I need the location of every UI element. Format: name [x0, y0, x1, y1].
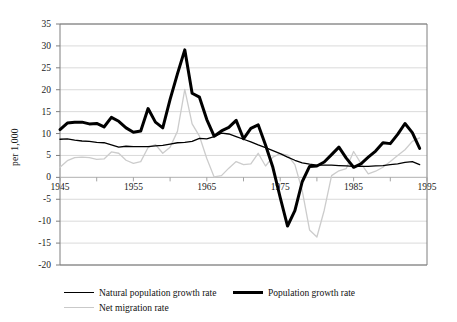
- legend-item-natural-population-growth-rate: Natural population growth rate: [64, 288, 216, 299]
- legend-label-migration: Net migration rate: [99, 303, 169, 313]
- population-growth-chart: per 1,000 35302520151050-5-10-15-20 1945…: [0, 0, 457, 322]
- legend-label-natural: Natural population growth rate: [99, 288, 216, 298]
- legend-swatch-gray-line: [64, 307, 94, 308]
- legend-item-population-growth-rate: Population growth rate: [233, 288, 355, 299]
- plot-area: [0, 0, 457, 322]
- legend-label-population: Population growth rate: [268, 288, 355, 298]
- legend-swatch-thin-line: [64, 292, 94, 293]
- legend-swatch-thick-line: [233, 291, 263, 294]
- legend-item-net-migration-rate: Net migration rate: [64, 303, 169, 314]
